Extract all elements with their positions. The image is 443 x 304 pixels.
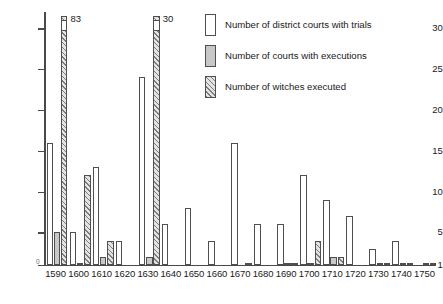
legend-label: Number of district courts with trials [225,20,372,30]
bar-group [67,12,90,265]
bar-trials-1660 [208,241,215,265]
bar-trials-1610 [93,167,100,265]
bar-group: 30 [136,12,159,265]
bar-executions-1740 [400,263,407,265]
bar-executions-1690 [284,263,291,265]
bar-group: 83 [44,12,67,265]
bar-group [90,12,113,265]
bar-group [367,12,390,265]
bar-group [390,12,413,265]
bar-trials-1590 [47,143,54,265]
bar-trials-1650 [185,208,192,265]
bar-group [182,12,205,265]
bar-group [113,12,136,265]
bar-trials-1720 [346,216,353,265]
bar-executions-1730 [377,263,384,265]
bar-executions-1600 [77,263,84,265]
bar-executions-1710 [330,257,337,265]
bar-witches-1750 [430,263,437,265]
legend-swatch-executions [205,45,216,67]
bar-trials-1700 [300,175,307,265]
bar-executions-1590 [54,232,61,265]
y-tick-mark [38,265,44,266]
axis-break-marker [62,20,67,31]
bar-executions-1630 [146,257,153,265]
bar-trials-1680 [254,224,261,265]
axis-break-marker [154,20,159,31]
bar-trials-1670 [231,143,238,265]
bar-trials-1710 [323,200,330,265]
bar-group [159,12,182,265]
bar-trials-1730 [369,249,376,265]
bar-executions-1610 [100,257,107,265]
x-tick-label: 1750 [405,269,443,279]
bar-trials-1620 [116,241,123,265]
bar-chart: 151015202530 0 8330 15901600161016201630… [0,0,443,304]
legend-swatch-trials [205,14,216,36]
bar-executions-1750 [423,263,430,265]
legend-label: Number of witches executed [225,82,346,92]
origin-zero-label: 0 [36,258,40,265]
bar-executions-1700 [307,263,314,265]
legend-swatch-witches [205,76,216,98]
bar-trials-1740 [392,241,399,265]
bar-trials-1640 [162,224,169,265]
bar-trials-1690 [277,224,284,265]
bar-trials-1600 [70,232,77,265]
bar-group [413,12,436,265]
bar-trials-1630 [139,77,146,265]
legend-label: Number of courts with executions [225,51,367,61]
